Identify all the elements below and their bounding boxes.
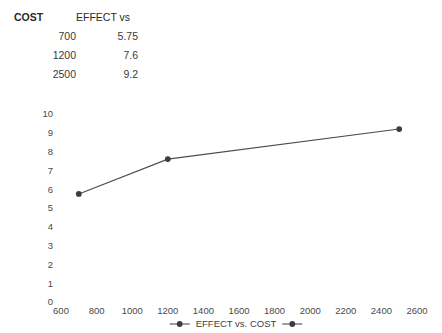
data-point-marker [76,191,82,197]
cost-effect-data-table: COST EFFECT vs 700 5.75 1200 7.6 2500 9.… [0,0,442,84]
legend-marker-left [177,321,183,327]
effect-vs-cost-line-chart: 012345678910 600800100012001400160018002… [0,96,442,333]
x-tick-label: 800 [89,305,105,316]
cell-cost: 700 [14,27,76,46]
plot-series-group [76,126,402,197]
x-tick-label: 1200 [157,305,178,316]
y-tick-label: 2 [48,259,53,270]
y-tick-label: 1 [48,278,53,289]
legend-marker-right [289,321,295,327]
x-tick-label: 600 [53,305,69,316]
chart-svg: 012345678910 600800100012001400160018002… [0,96,442,333]
table-row: 1200 7.6 [14,46,138,65]
y-axis-tick-labels: 012345678910 [42,108,53,307]
x-tick-label: 2600 [406,305,427,316]
x-tick-label: 1600 [228,305,249,316]
x-tick-label: 2200 [335,305,356,316]
cell-effect: 7.6 [76,46,138,65]
y-tick-label: 4 [48,221,53,232]
x-tick-label: 1400 [193,305,214,316]
cell-cost: 1200 [14,46,76,65]
column-header-effect: EFFECT vs [76,8,138,27]
y-tick-label: 7 [48,165,53,176]
data-table: COST EFFECT vs 700 5.75 1200 7.6 2500 9.… [14,8,138,84]
cell-effect: 9.2 [76,65,138,84]
series-line [79,129,399,194]
x-tick-label: 2400 [371,305,392,316]
y-tick-label: 10 [42,108,53,119]
y-tick-label: 5 [48,202,53,213]
y-tick-label: 9 [48,127,53,138]
x-tick-label: 1800 [264,305,285,316]
x-tick-label: 2000 [300,305,321,316]
x-tick-label: 1000 [122,305,143,316]
table-body: 700 5.75 1200 7.6 2500 9.2 [14,27,138,84]
table-head: COST EFFECT vs [14,8,138,27]
y-tick-label: 3 [48,240,53,251]
chart-legend: EFFECT vs. COST [170,318,303,329]
table-header-row: COST EFFECT vs [14,8,138,27]
legend-label: EFFECT vs. COST [196,318,277,329]
x-axis-tick-labels: 6008001000120014001600180020002200240026… [53,305,428,316]
table-row: 700 5.75 [14,27,138,46]
data-point-marker [396,126,402,132]
cell-effect: 5.75 [76,27,138,46]
y-tick-label: 6 [48,184,53,195]
cell-cost: 2500 [14,65,76,84]
table-row: 2500 9.2 [14,65,138,84]
y-tick-label: 8 [48,146,53,157]
column-header-cost: COST [14,8,76,27]
data-point-marker [165,156,171,162]
